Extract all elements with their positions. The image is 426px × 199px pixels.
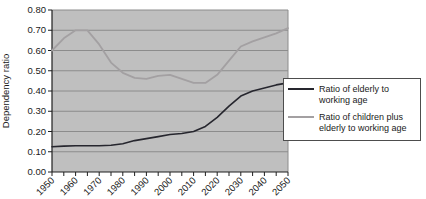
y-tick-label: 0.60 (28, 45, 47, 56)
y-tick-label: 0.50 (28, 65, 47, 76)
x-tick-label: 2040 (246, 175, 269, 198)
dependency-ratio-chart: Dependency ratio 0.000.100.200.300.400.5… (0, 0, 426, 199)
y-axis-title: Dependency ratio (0, 54, 11, 128)
y-tick-label: 0.30 (28, 105, 47, 116)
legend: Ratio of elderly to working age Ratio of… (283, 78, 421, 141)
y-tick-label: 0.00 (28, 166, 47, 177)
legend-item-children-elderly: Ratio of children plus elderly to workin… (288, 112, 416, 135)
x-tick-label: 1990 (128, 175, 151, 198)
y-tick-label: 0.70 (28, 24, 47, 35)
legend-label-children-elderly: Ratio of children plus elderly to workin… (319, 112, 416, 135)
x-tick-label: 2030 (222, 175, 245, 198)
series-1-line-swatch (288, 88, 314, 90)
x-tick-label: 2050 (270, 175, 293, 198)
x-tick-label: 1980 (104, 175, 127, 198)
x-tick-label: 2010 (175, 175, 198, 198)
legend-label-elderly: Ratio of elderly to working age (319, 84, 416, 107)
y-tick-label: 0.10 (28, 146, 47, 157)
x-tick-label: 1960 (57, 175, 80, 198)
y-tick-label: 0.20 (28, 126, 47, 137)
x-tick-label: 2000 (152, 175, 175, 198)
series-2-line-swatch (288, 116, 314, 118)
y-tick-label: 0.40 (28, 85, 47, 96)
plot-layer: 0.000.100.200.300.400.500.600.700.801950… (28, 4, 293, 197)
legend-item-elderly: Ratio of elderly to working age (288, 84, 416, 107)
x-tick-label: 1950 (34, 175, 57, 198)
x-tick-label: 1970 (81, 175, 104, 198)
y-tick-label: 0.80 (28, 4, 47, 15)
x-tick-label: 2020 (199, 175, 222, 198)
